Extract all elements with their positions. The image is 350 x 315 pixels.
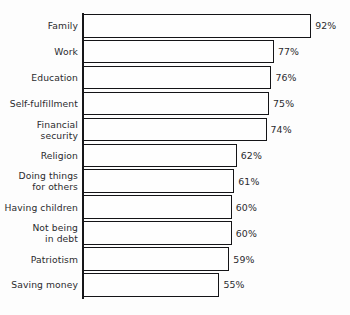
chart-row: Education76% [0,65,350,91]
bar [83,273,219,297]
bar [83,221,232,245]
bar-value-label: 76% [271,65,296,91]
bar-chart: Family92%Work77%Education76%Self-fulfill… [0,0,350,315]
category-label-line: Patriotism [31,254,78,265]
bar [83,247,229,271]
category-label: Religion [0,143,78,169]
bar [83,195,232,219]
category-label: Doing thingsfor others [0,168,78,194]
bar-value-label: 75% [269,91,294,117]
chart-row: Doing thingsfor others61% [0,168,350,194]
chart-row: Work77% [0,39,350,65]
category-label: Not beingin debt [0,220,78,246]
category-label-line: Saving money [11,279,78,290]
bar [83,118,267,142]
bar [83,14,311,38]
chart-row: Family92% [0,13,350,39]
category-label: Family [0,13,78,39]
bar-value-label: 55% [219,272,244,298]
bar [83,144,237,168]
bar [83,169,234,193]
chart-row: Religion62% [0,143,350,169]
category-label: Education [0,65,78,91]
category-label: Patriotism [0,246,78,272]
chart-row: Patriotism59% [0,246,350,272]
bar [83,40,274,64]
chart-row: Financialsecurity74% [0,117,350,143]
category-label-line: security [41,130,78,141]
category-label-line: Doing things [19,170,78,181]
category-label-line: in debt [45,233,78,244]
bar-value-label: 61% [234,168,259,194]
category-label-line: Not being [32,222,78,233]
bar [83,92,269,116]
category-label: Having children [0,194,78,220]
category-label-line: Religion [41,150,78,161]
bar-value-label: 74% [267,117,292,143]
chart-row: Not beingin debt60% [0,220,350,246]
bar-value-label: 59% [229,246,254,272]
bar-value-label: 77% [274,39,299,65]
bar-value-label: 92% [311,13,336,39]
category-label-line: Having children [5,202,78,213]
bar [83,66,271,90]
category-label-line: Education [31,72,78,83]
category-label: Self-fulfillment [0,91,78,117]
chart-row: Saving money55% [0,272,350,298]
category-label: Financialsecurity [0,117,78,143]
bar-value-label: 60% [232,220,257,246]
chart-row: Self-fulfillment75% [0,91,350,117]
category-label: Saving money [0,272,78,298]
bar-value-label: 62% [237,143,262,169]
category-label-line: Family [48,20,78,31]
category-label-line: Work [54,46,78,57]
chart-row: Having children60% [0,194,350,220]
category-label: Work [0,39,78,65]
category-label-line: for others [32,181,78,192]
category-label-line: Self-fulfillment [10,98,78,109]
category-label-line: Financial [37,119,78,130]
bar-value-label: 60% [232,194,257,220]
